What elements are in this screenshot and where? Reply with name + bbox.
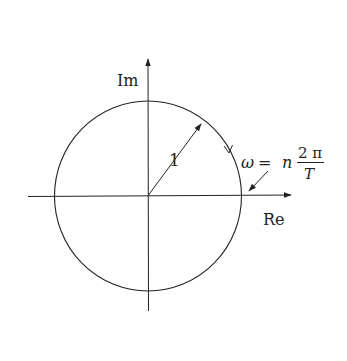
equals-sign: = [258, 153, 271, 172]
imag-axis-label: Im [117, 71, 139, 90]
real-axis [28, 195, 291, 197]
unit-circle-diagram: Im Re 1 ω = n 2 π T [0, 0, 347, 361]
imaginary-axis [148, 59, 149, 311]
omega-symbol: ω [241, 153, 254, 172]
real-axis-label: Re [263, 210, 285, 229]
frequency-pointer-arrow [249, 171, 268, 191]
fraction-numerator: 2 π [298, 144, 322, 162]
radius-label: 1 [169, 150, 180, 170]
n-symbol: n [282, 153, 292, 172]
fraction-denominator: T [304, 165, 315, 183]
